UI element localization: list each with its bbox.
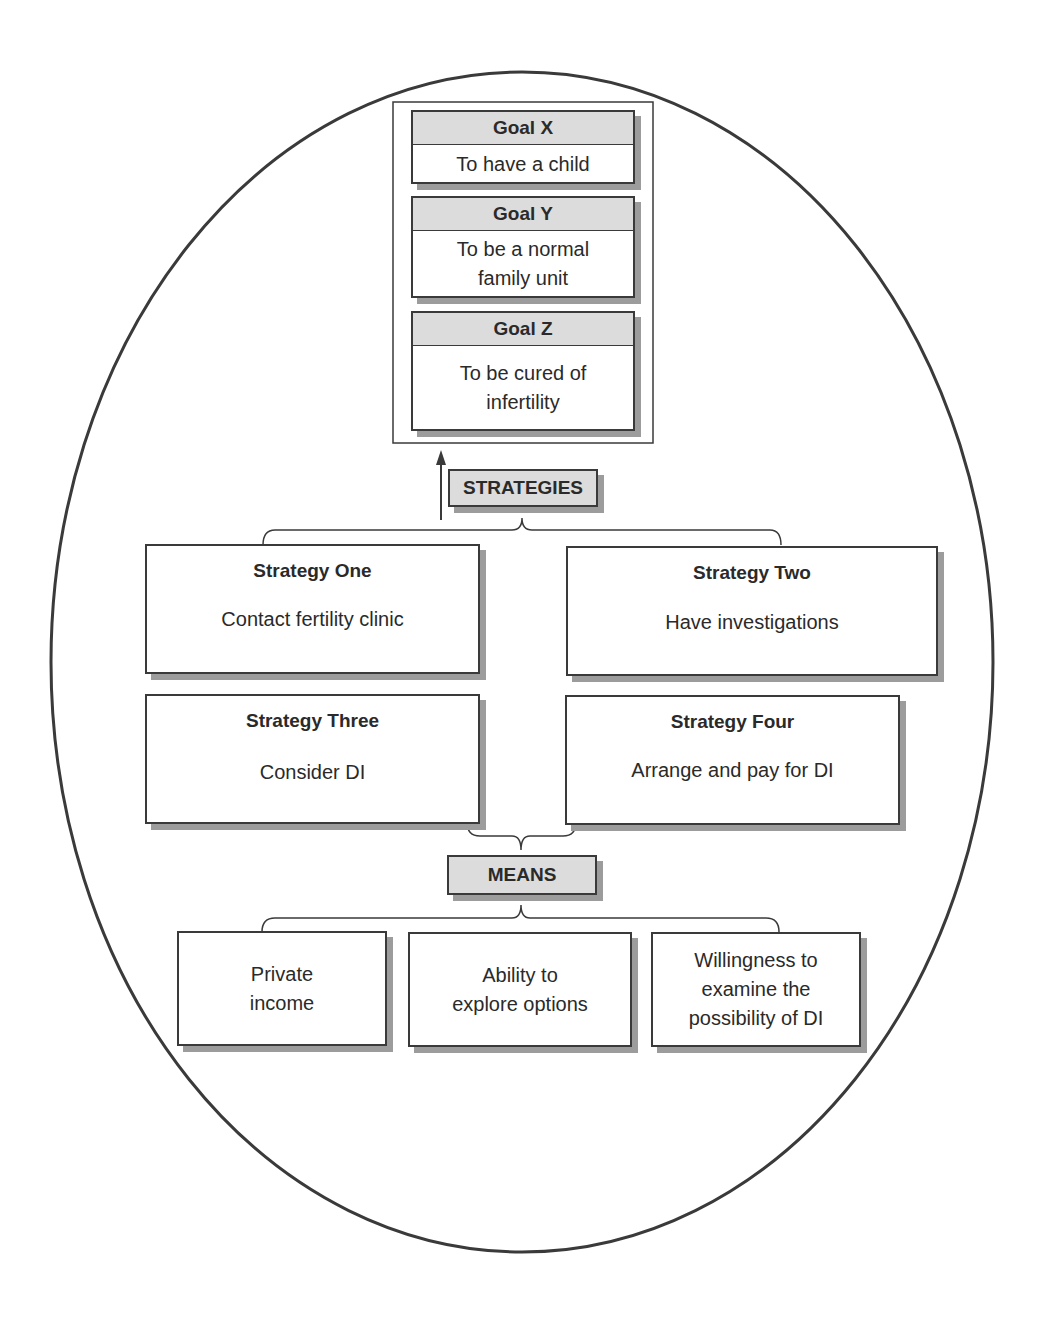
goal-x-box: Goal X To have a child: [411, 110, 635, 184]
strategy-three-box: Strategy Three Consider DI: [145, 694, 480, 824]
strategy-four-title: Strategy Four: [567, 711, 898, 733]
strategy-one-title: Strategy One: [147, 560, 478, 582]
goal-y-body: To be a normal family unit: [413, 231, 633, 297]
means-label: MEANS: [447, 855, 597, 895]
means-upper-bracket: [467, 822, 576, 850]
goal-z-title: Goal Z: [413, 313, 633, 346]
goal-x-title: Goal X: [413, 112, 633, 145]
strategy-one-box: Strategy One Contact fertility clinic: [145, 544, 480, 674]
goal-y-text-line1: To be a normal: [457, 235, 589, 264]
means-ability-explore: Ability to explore options: [408, 932, 632, 1047]
goal-y-text-line2: family unit: [478, 264, 568, 293]
arrow-head-icon: [436, 450, 446, 465]
goal-y-title: Goal Y: [413, 198, 633, 231]
strategy-two-text: Have investigations: [568, 611, 936, 634]
goal-x-text: To have a child: [413, 145, 633, 183]
goal-z-text-line1: To be cured of: [460, 359, 587, 388]
strategy-three-title: Strategy Three: [147, 710, 478, 732]
means-private-income: Private income: [177, 931, 387, 1046]
goal-y-box: Goal Y To be a normal family unit: [411, 196, 635, 298]
strategy-four-box: Strategy Four Arrange and pay for DI: [565, 695, 900, 825]
goal-z-body: To be cured of infertility: [413, 346, 633, 430]
strategy-three-text: Consider DI: [147, 761, 478, 784]
strategies-label: STRATEGIES: [448, 469, 598, 507]
means-willingness-di: Willingness to examine the possibility o…: [651, 932, 861, 1047]
strategy-four-text: Arrange and pay for DI: [567, 759, 898, 782]
means-lower-bracket: [262, 905, 779, 932]
strategy-two-title: Strategy Two: [568, 562, 936, 584]
strategy-one-text: Contact fertility clinic: [147, 608, 478, 631]
goal-z-box: Goal Z To be cured of infertility: [411, 311, 635, 431]
strategies-bracket: [263, 518, 781, 545]
strategy-two-box: Strategy Two Have investigations: [566, 546, 938, 676]
goal-z-text-line2: infertility: [486, 388, 559, 417]
